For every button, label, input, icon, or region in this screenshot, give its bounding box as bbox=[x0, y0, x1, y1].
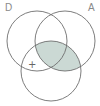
venn-diagram: D A + bbox=[0, 0, 100, 106]
circle-d bbox=[7, 11, 67, 71]
plus-marker: + bbox=[28, 59, 36, 70]
label-a: A bbox=[88, 2, 95, 13]
label-d: D bbox=[5, 2, 12, 13]
